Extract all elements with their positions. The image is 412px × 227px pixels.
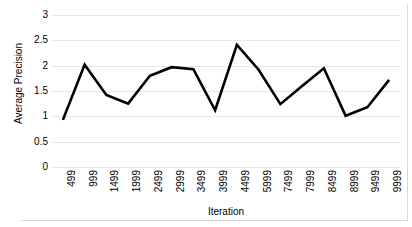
x-axis-tick-label: 1499 [110,170,120,192]
y-axis-tick-label: 0.5 [18,137,48,147]
x-axis-tick-labels: 4999991499199924992999349939994499599974… [52,167,400,205]
x-axis-tick-label: 9999 [393,170,403,192]
x-axis-tick-label: 8499 [328,170,338,192]
y-axis-tick-label: 0 [18,162,48,172]
x-axis-title: Iteration [52,206,400,217]
x-axis-tick-label: 7499 [284,170,294,192]
y-axis-tick-labels: 00.511.522.53 [18,0,48,227]
x-axis-tick-label: 3999 [219,170,229,192]
x-axis-tick-label: 7999 [306,170,316,192]
y-axis-tick-label: 1.5 [18,86,48,96]
x-axis-tick-label: 4499 [241,170,251,192]
data-series-line [52,15,400,167]
x-axis-tick-label: 2499 [154,170,164,192]
series-polyline [63,45,389,120]
x-axis-tick-label: 1999 [132,170,142,192]
x-axis-tick-label: 9499 [371,170,381,192]
x-axis-tick-label: 2999 [176,170,186,192]
y-axis-tick-label: 2 [18,61,48,71]
plot-area [52,15,400,167]
y-axis-tick-label: 3 [18,10,48,20]
x-axis-tick-label: 499 [67,170,77,187]
x-axis-tick-label: 999 [89,170,99,187]
x-axis-tick-label: 5999 [263,170,273,192]
chart-figure: Average Precision 00.511.522.53 49999914… [0,0,412,227]
x-axis-tick-label: 8999 [350,170,360,192]
y-axis-tick-label: 2.5 [18,35,48,45]
x-axis-tick-label: 3499 [197,170,207,192]
y-axis-tick-label: 1 [18,111,48,121]
